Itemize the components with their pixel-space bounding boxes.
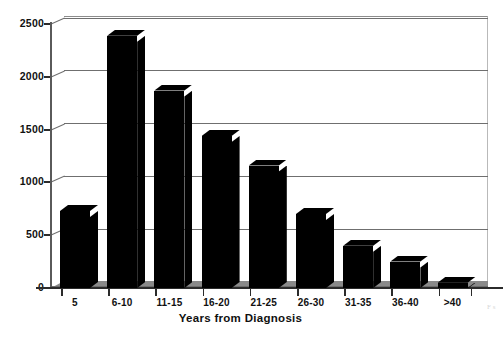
bar <box>390 256 428 288</box>
bar-side-face <box>420 262 428 288</box>
x-axis-tick-label: 26-30 <box>285 297 337 308</box>
x-axis-tick-label: 31-35 <box>332 297 384 308</box>
bar-top-face <box>154 85 192 91</box>
bar-top-face <box>202 130 240 136</box>
x-axis-tick <box>439 289 441 296</box>
bar <box>154 85 192 288</box>
bar-front-face <box>154 91 184 288</box>
bar-side-face <box>373 246 381 288</box>
bar-side-face <box>137 36 145 288</box>
x-axis-tick <box>391 289 393 296</box>
bar <box>249 160 287 288</box>
bar-chart-figure: 05001000150020002500 56-1011-1516-2021-2… <box>0 0 503 345</box>
scan-edge-artifact: F s <box>487 303 501 333</box>
x-axis-title: Years from Diagnosis <box>0 312 503 324</box>
bar-top-face <box>60 205 98 211</box>
bar-side-face <box>184 91 192 288</box>
x-axis-tick-label: 21-25 <box>238 297 290 308</box>
bar <box>438 277 476 288</box>
bar-top-face <box>438 277 476 283</box>
bar-side-face <box>90 211 98 288</box>
bar-top-face <box>390 256 428 262</box>
bar-side-face <box>232 136 240 288</box>
bar-front-face <box>107 36 137 288</box>
bar <box>107 30 145 288</box>
bar-front-face <box>296 214 326 288</box>
x-axis-tick <box>108 289 110 296</box>
bar-side-face <box>468 283 476 288</box>
bar-side-face <box>279 166 287 288</box>
bar <box>60 205 98 288</box>
bar <box>202 130 240 288</box>
x-axis-tick-label: >40 <box>427 297 479 308</box>
x-axis-tick-label: 5 <box>49 297 101 308</box>
x-axis-tick <box>250 289 252 296</box>
x-axis-tick <box>344 289 346 296</box>
bar-top-face <box>343 240 381 246</box>
bar <box>343 240 381 288</box>
bar-front-face <box>343 246 373 288</box>
x-axis-tick <box>297 289 299 296</box>
bar-top-face <box>249 160 287 166</box>
x-axis-tick <box>61 289 63 296</box>
bar-front-face <box>438 283 468 288</box>
bar-top-face <box>296 208 334 214</box>
bar-front-face <box>202 136 232 288</box>
x-axis-tick-label: 16-20 <box>191 297 243 308</box>
bar-front-face <box>249 166 279 288</box>
bar-front-face <box>390 262 420 288</box>
x-axis-tick <box>203 289 205 296</box>
bar <box>296 208 334 288</box>
x-axis-tick-label: 6-10 <box>96 297 148 308</box>
bar-top-face <box>107 30 145 36</box>
bar-series <box>0 0 503 345</box>
x-axis-tick <box>471 289 473 296</box>
bar-side-face <box>326 214 334 288</box>
bar-front-face <box>60 211 90 288</box>
x-axis-tick-label: 36-40 <box>379 297 431 308</box>
x-axis-title-text: Years from Diagnosis <box>179 312 303 324</box>
x-axis-tick <box>155 289 157 296</box>
x-axis-tick-label: 11-15 <box>143 297 195 308</box>
plot-area: 05001000150020002500 56-1011-1516-2021-2… <box>0 0 503 345</box>
